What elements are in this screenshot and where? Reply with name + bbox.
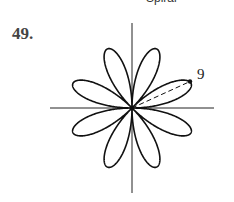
rose-curve-figure — [0, 0, 234, 202]
petal-tip-point — [188, 79, 192, 83]
petal-tip-label: 9 — [197, 66, 205, 83]
